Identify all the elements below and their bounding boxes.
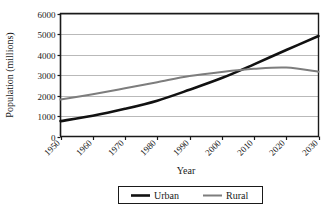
x-tick-label: 1950 — [42, 137, 62, 157]
x-tick-label: 2000 — [203, 137, 223, 157]
y-tick-label: 2000 — [38, 92, 57, 102]
y-tick-labels: 0100020003000400050006000 — [38, 10, 57, 143]
y-tick-label: 4000 — [38, 51, 57, 61]
x-tick-label: 2020 — [267, 137, 287, 157]
x-tick-label: 2010 — [235, 137, 255, 157]
x-tick-label: 2030 — [300, 137, 320, 157]
x-tick-label: 1980 — [138, 137, 158, 157]
gridlines — [61, 15, 319, 117]
x-tick-label: 1970 — [106, 137, 126, 157]
y-tick-label: 3000 — [38, 71, 57, 81]
x-tick-labels: 195019601970198019902000201020202030 — [42, 137, 320, 157]
y-axis-title: Population (millions) — [4, 32, 16, 117]
population-line-chart: 0100020003000400050006000 19501960197019… — [0, 0, 336, 210]
chart-legend: UrbanRural — [119, 187, 263, 204]
y-tick-label: 5000 — [38, 30, 57, 40]
x-tick-label: 1990 — [171, 137, 191, 157]
legend-label-rural: Rural — [226, 190, 248, 201]
x-tick-label: 1960 — [74, 137, 94, 157]
series-line-urban — [61, 36, 319, 121]
x-axis-title: Year — [177, 165, 196, 176]
y-tick-label: 6000 — [38, 10, 57, 20]
series-line-rural — [61, 67, 319, 99]
legend-label-urban: Urban — [154, 190, 179, 201]
data-series-group — [61, 36, 319, 121]
chart-canvas: 0100020003000400050006000 19501960197019… — [0, 0, 336, 210]
y-tick-label: 1000 — [38, 112, 57, 122]
